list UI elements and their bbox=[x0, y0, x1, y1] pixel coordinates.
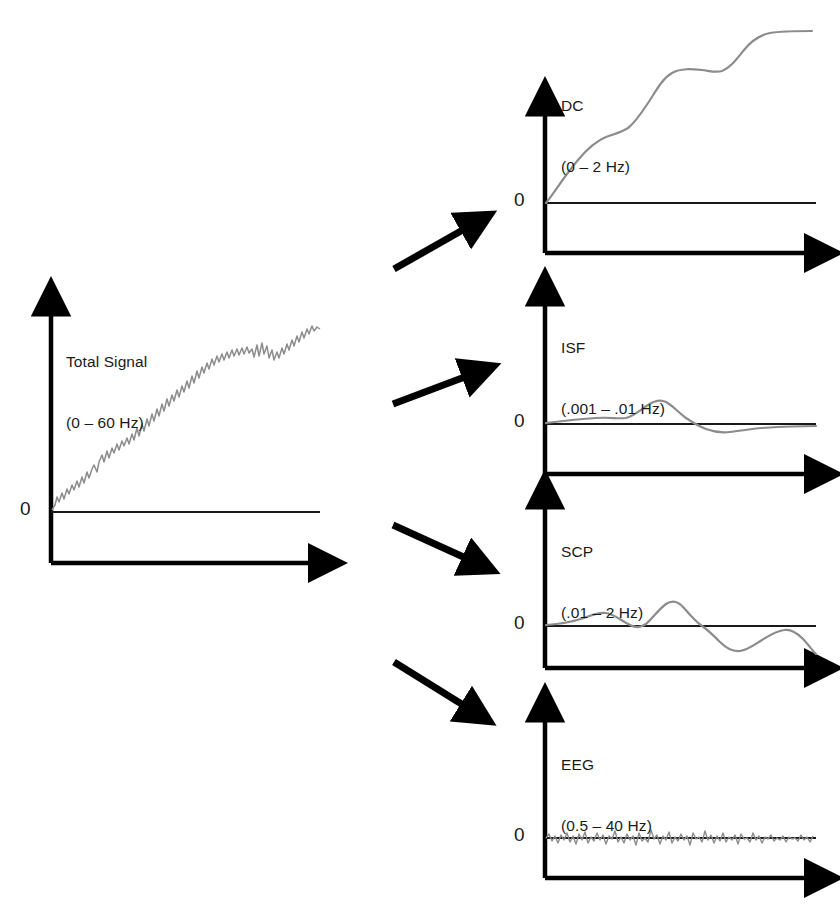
dc-label: DC (0 – 2 Hz) bbox=[561, 55, 630, 219]
total-signal-label: Total Signal (0 – 60 Hz) bbox=[66, 311, 147, 475]
total-signal-label-line1: Total Signal bbox=[66, 352, 147, 372]
arrow-to-dc bbox=[394, 227, 468, 269]
decomposition-arrows bbox=[393, 227, 470, 708]
arrow-to-scp bbox=[393, 525, 470, 560]
eeg-label-line2: (0.5 – 40 Hz) bbox=[561, 816, 652, 836]
dc-label-line1: DC bbox=[561, 96, 630, 116]
total-signal-label-line2: (0 – 60 Hz) bbox=[66, 413, 147, 433]
arrow-to-eeg bbox=[394, 662, 468, 708]
eeg-label: EEG (0.5 – 40 Hz) bbox=[561, 714, 652, 878]
scp-label-line1: SCP bbox=[561, 542, 643, 562]
dc-label-line2: (0 – 2 Hz) bbox=[561, 157, 630, 177]
isf-label-line1: ISF bbox=[561, 338, 665, 358]
eeg-zero-label: 0 bbox=[514, 824, 525, 846]
eeg-label-line1: EEG bbox=[561, 755, 652, 775]
total-signal-zero-label: 0 bbox=[20, 498, 31, 520]
isf-label-line2: (.001 – .01 Hz) bbox=[561, 399, 665, 419]
scp-label: SCP (.01 – 2 Hz) bbox=[561, 501, 643, 665]
signal-decomposition-figure: Total Signal (0 – 60 Hz) 0 DC (0 – 2 Hz)… bbox=[0, 0, 840, 909]
scp-zero-label: 0 bbox=[514, 612, 525, 634]
isf-zero-label: 0 bbox=[514, 410, 525, 432]
arrow-to-isf bbox=[393, 375, 470, 404]
scp-label-line2: (.01 – 2 Hz) bbox=[561, 603, 643, 623]
isf-label: ISF (.001 – .01 Hz) bbox=[561, 297, 665, 461]
dc-zero-label: 0 bbox=[514, 189, 525, 211]
